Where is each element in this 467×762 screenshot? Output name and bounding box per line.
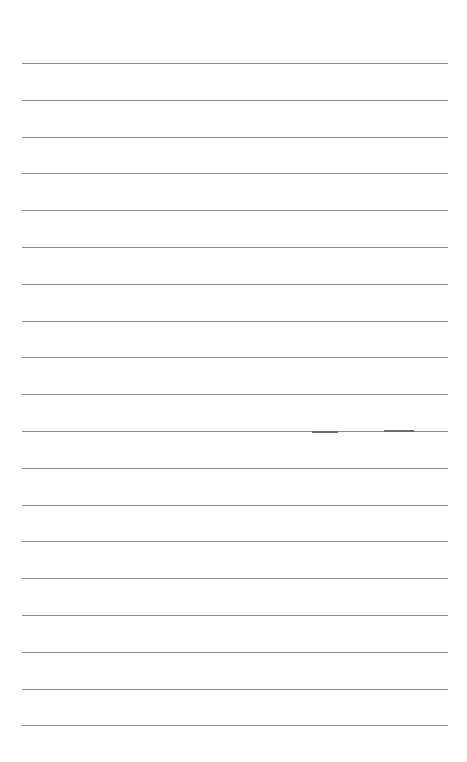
ruled-line bbox=[22, 173, 448, 174]
ruled-line bbox=[22, 505, 448, 506]
ruled-line bbox=[22, 578, 448, 579]
ruled-line bbox=[22, 468, 448, 469]
ruled-line bbox=[22, 137, 448, 138]
ruled-line bbox=[22, 321, 448, 322]
ruled-line bbox=[22, 689, 448, 690]
ruled-line bbox=[22, 284, 448, 285]
pencil-mark bbox=[312, 431, 338, 433]
ruled-line bbox=[22, 615, 448, 616]
ruled-line bbox=[22, 247, 448, 248]
ruled-line bbox=[22, 210, 448, 211]
pencil-mark bbox=[384, 430, 414, 432]
ruled-line bbox=[22, 100, 448, 101]
ruled-line bbox=[22, 357, 448, 358]
lined-paper-page bbox=[0, 0, 467, 762]
ruled-line bbox=[22, 63, 448, 64]
ruled-line bbox=[22, 541, 448, 542]
ruled-line bbox=[22, 394, 448, 395]
ruled-line bbox=[22, 725, 448, 726]
ruled-line bbox=[22, 652, 448, 653]
